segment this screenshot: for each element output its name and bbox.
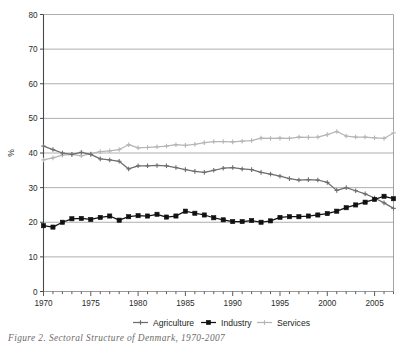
data-point-industry-2003: [354, 203, 358, 207]
data-point-services-2003: [353, 135, 358, 140]
data-point-agriculture-1976: [98, 157, 103, 162]
legend-item-agriculture[interactable]: Agriculture: [133, 318, 194, 328]
data-point-services-1986: [193, 142, 198, 147]
data-point-industry-1998: [306, 214, 310, 218]
data-point-agriculture-1999: [316, 178, 321, 183]
data-point-services-1989: [221, 139, 226, 144]
data-point-industry-1999: [316, 213, 320, 217]
data-point-agriculture-1977: [107, 158, 112, 163]
x-tick-marks: [44, 292, 394, 297]
y-tick-label-80: 80: [28, 11, 38, 20]
figure-caption: Figure 2. Sectoral Structure of Denmark,…: [8, 333, 408, 346]
data-point-agriculture-1981: [145, 164, 150, 169]
figure-container: 01020304050607080 1970197519801985199019…: [0, 0, 412, 346]
data-point-agriculture-1989: [221, 166, 226, 171]
data-point-industry-1996: [287, 215, 291, 219]
y-tick-label-20: 20: [28, 218, 38, 227]
y-tick-label-50: 50: [28, 114, 38, 123]
data-point-services-1983: [164, 144, 169, 149]
data-point-industry-1973: [70, 217, 74, 221]
data-point-agriculture-1987: [202, 170, 207, 175]
data-point-services-1984: [174, 142, 179, 147]
data-point-industry-1992: [250, 218, 254, 222]
y-tick-labels: 01020304050607080: [28, 11, 38, 297]
legend-label-industry: Industry: [221, 318, 252, 328]
data-point-industry-1997: [297, 215, 301, 219]
series-agriculture: [41, 144, 396, 211]
legend-item-industry[interactable]: Industry: [201, 318, 252, 328]
y-tick-label-0: 0: [33, 288, 38, 297]
data-point-agriculture-1998: [306, 177, 311, 182]
data-point-services-1997: [297, 135, 302, 140]
y-tick-label-60: 60: [28, 80, 38, 89]
data-point-agriculture-1997: [297, 178, 302, 183]
data-point-services-1982: [155, 144, 160, 149]
data-series-layer: [41, 129, 396, 229]
legend-label-agriculture: Agriculture: [153, 318, 194, 328]
data-point-services-1978: [117, 147, 122, 152]
data-point-industry-1991: [240, 219, 244, 223]
data-point-industry-1984: [174, 214, 178, 218]
series-line-agriculture: [44, 146, 394, 208]
x-tick-label-2005: 2005: [365, 299, 384, 308]
x-tick-label-2000: 2000: [318, 299, 337, 308]
x-tick-label-1990: 1990: [224, 299, 243, 308]
data-point-industry-1970: [41, 224, 45, 228]
data-point-industry-1980: [136, 214, 140, 218]
data-point-industry-2001: [335, 209, 339, 213]
data-point-services-1979: [126, 142, 131, 147]
data-point-agriculture-1988: [211, 168, 216, 173]
data-point-industry-2005: [372, 197, 376, 201]
data-point-agriculture-1995: [278, 174, 283, 179]
data-point-services-1988: [211, 139, 216, 144]
data-point-industry-1993: [259, 220, 263, 224]
data-point-industry-1972: [60, 220, 64, 224]
data-point-agriculture-1984: [174, 165, 179, 170]
chart-legend: AgricultureIndustryServices: [133, 318, 310, 328]
data-point-services-1995: [278, 136, 283, 141]
data-point-industry-1978: [117, 218, 121, 222]
data-point-industry-1982: [155, 212, 159, 216]
data-point-industry-1986: [193, 211, 197, 215]
data-point-industry-1979: [127, 215, 131, 219]
data-point-agriculture-1996: [287, 176, 292, 181]
data-point-services-1977: [107, 149, 112, 154]
data-point-industry-1971: [51, 225, 55, 229]
data-point-agriculture-1992: [249, 167, 254, 172]
x-tick-label-1975: 1975: [82, 299, 101, 308]
data-point-industry-1981: [145, 214, 149, 218]
y-tick-label-40: 40: [28, 149, 38, 158]
legend-marker-agriculture: [138, 320, 143, 325]
data-point-agriculture-1974: [79, 150, 84, 155]
data-point-industry-2000: [325, 211, 329, 215]
series-industry: [41, 194, 395, 229]
data-point-industry-1989: [221, 218, 225, 222]
x-tick-label-1985: 1985: [176, 299, 195, 308]
data-point-services-1999: [316, 135, 321, 140]
data-point-industry-1977: [108, 214, 112, 218]
data-point-services-2005: [372, 135, 377, 140]
data-point-agriculture-2002: [344, 185, 349, 190]
data-point-industry-2007: [391, 197, 395, 201]
data-point-services-1991: [240, 139, 245, 144]
data-point-agriculture-2003: [353, 188, 358, 193]
data-point-agriculture-1994: [268, 172, 273, 177]
data-point-services-1987: [202, 140, 207, 145]
data-point-agriculture-1982: [155, 163, 160, 168]
data-point-services-2004: [363, 135, 368, 140]
data-point-services-1994: [268, 136, 273, 141]
data-point-services-2002: [344, 134, 349, 139]
data-point-services-1981: [145, 145, 150, 150]
data-point-industry-1974: [79, 216, 83, 220]
data-point-agriculture-1971: [51, 147, 56, 152]
data-point-services-1993: [259, 136, 264, 141]
data-point-agriculture-1983: [164, 164, 169, 169]
data-point-agriculture-1990: [230, 165, 235, 170]
data-point-industry-1995: [278, 215, 282, 219]
legend-item-services[interactable]: Services: [257, 318, 310, 328]
data-point-agriculture-1980: [136, 164, 141, 169]
data-point-services-1992: [249, 138, 254, 143]
data-point-industry-1987: [202, 213, 206, 217]
data-point-industry-1975: [89, 217, 93, 221]
data-point-services-1996: [287, 136, 292, 141]
